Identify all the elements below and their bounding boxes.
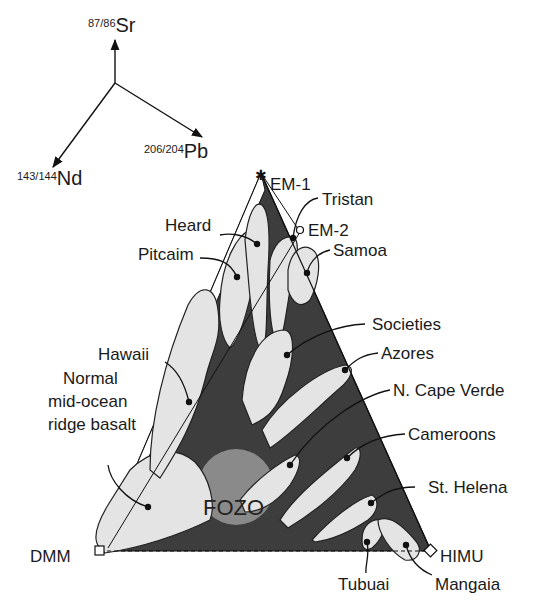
himu-label: HIMU [440, 547, 483, 566]
nd-arrow-icon [53, 83, 115, 167]
tubuai-label: Tubuai [338, 575, 389, 594]
sr-axis-label: 87/86Sr [88, 14, 136, 36]
mangaia-label: Mangaia [435, 575, 501, 594]
pb-axis-label: 206/204Pb [144, 140, 208, 162]
mantle-endmember-diagram: 87/86Sr 206/204Pb 143/144Nd [0, 0, 540, 610]
cape-verde-label: N. Cape Verde [393, 381, 505, 400]
dmm-marker-icon [95, 546, 104, 555]
em1-label: EM-1 [270, 175, 311, 194]
morb-label-line3: ridge basalt [48, 415, 136, 434]
pitcaim-label: Pitcaim [138, 245, 194, 264]
st-helena-label: St. Helena [428, 478, 508, 497]
morb-label-line2: mid-ocean [48, 392, 127, 411]
em2-label: EM-2 [308, 221, 349, 240]
pb-arrow-icon [115, 83, 202, 137]
nd-axis-label: 143/144Nd [17, 167, 82, 189]
azores-label: Azores [381, 344, 434, 363]
tristan-label: Tristan [322, 190, 373, 209]
em1-star-icon: ✱ [255, 167, 267, 183]
dmm-label: DMM [30, 547, 71, 566]
morb-label-line1: Normal [63, 369, 118, 388]
cameroons-label: Cameroons [408, 425, 496, 444]
em2-marker-icon [297, 227, 304, 234]
samoa-label: Samoa [333, 241, 387, 260]
hawaii-label: Hawaii [98, 345, 149, 364]
isotope-axes: 87/86Sr 206/204Pb 143/144Nd [17, 14, 208, 189]
societies-label: Societies [372, 315, 441, 334]
fozo-label: FOZO [203, 495, 264, 520]
heard-label: Heard [165, 216, 211, 235]
